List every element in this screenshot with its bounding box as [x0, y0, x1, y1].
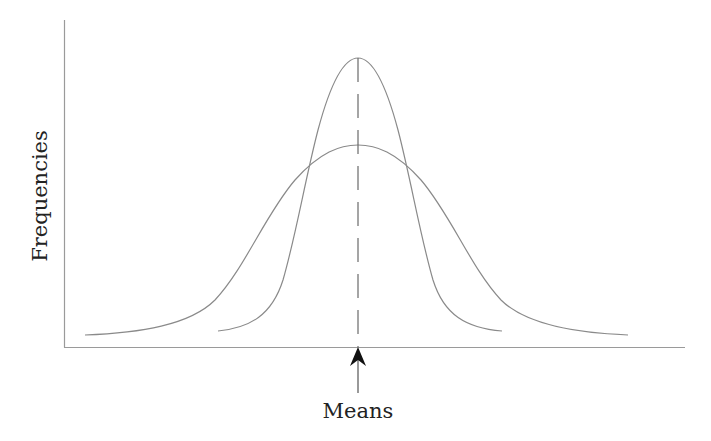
wide-distribution-curve [85, 145, 628, 335]
mean-arrow-icon [350, 347, 366, 393]
narrow-distribution-curve [218, 58, 502, 331]
frequencies-axis-label: Frequencies [28, 130, 52, 262]
means-label: Means [323, 399, 394, 423]
distribution-diagram: Means Frequencies [0, 0, 711, 441]
